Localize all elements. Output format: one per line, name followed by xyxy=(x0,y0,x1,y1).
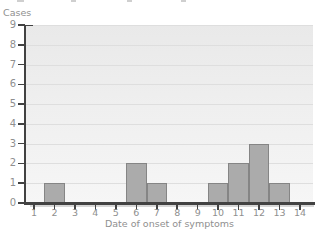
y-tick-label-4: 4 xyxy=(0,119,16,129)
gridline-y2 xyxy=(26,163,313,164)
y-tick-label-8: 8 xyxy=(0,40,16,50)
y-tick-label-7: 7 xyxy=(0,60,16,70)
y-tick-label-5: 5 xyxy=(0,99,16,109)
y-axis-line xyxy=(24,25,26,205)
gridline-y3 xyxy=(26,144,313,145)
x-tick-label-11: 11 xyxy=(229,207,249,218)
x-tick-label-8: 8 xyxy=(167,207,187,218)
cropped-text-artifact xyxy=(71,0,76,2)
cropped-text-artifact xyxy=(17,0,24,2)
x-tick-label-7: 7 xyxy=(147,207,167,218)
y-axis-title: Cases xyxy=(3,7,31,18)
bar-day-11 xyxy=(228,163,249,203)
gridline-y6 xyxy=(26,84,313,85)
y-tick-8 xyxy=(18,44,25,46)
y-tick-label-3: 3 xyxy=(0,139,16,149)
gridline-y7 xyxy=(26,65,313,66)
y-tick-label-2: 2 xyxy=(0,158,16,168)
y-tick-2 xyxy=(18,163,25,165)
x-tick-label-13: 13 xyxy=(270,207,290,218)
bar-day-2 xyxy=(44,183,65,203)
y-tick-5 xyxy=(18,103,25,105)
y-tick-6 xyxy=(18,84,25,86)
y-tick-1 xyxy=(18,182,25,184)
x-tick-label-9: 9 xyxy=(188,207,208,218)
epi-curve-chart: Cases Date of onset of symptoms 01234567… xyxy=(0,0,322,233)
x-tick-label-3: 3 xyxy=(65,207,85,218)
y-tick-4 xyxy=(18,123,25,125)
y-tick-label-0: 0 xyxy=(0,198,16,208)
bar-day-7 xyxy=(147,183,168,203)
x-tick-label-1: 1 xyxy=(24,207,44,218)
x-tick-label-2: 2 xyxy=(44,207,64,218)
gridline-y5 xyxy=(26,104,313,105)
x-axis-line xyxy=(24,202,315,204)
bar-day-12 xyxy=(249,144,270,203)
cropped-text-artifact xyxy=(181,0,186,2)
cropped-text-artifact xyxy=(127,0,132,2)
y-tick-label-6: 6 xyxy=(0,79,16,89)
plot-area xyxy=(26,25,313,203)
bar-day-10 xyxy=(208,183,229,203)
y-tick-3 xyxy=(18,143,25,145)
x-tick-label-4: 4 xyxy=(85,207,105,218)
y-tick-label-9: 9 xyxy=(0,20,16,30)
y-tick-label-1: 1 xyxy=(0,178,16,188)
x-tick-label-6: 6 xyxy=(126,207,146,218)
x-tick-label-12: 12 xyxy=(249,207,269,218)
bar-day-6 xyxy=(126,163,147,203)
x-tick-label-5: 5 xyxy=(106,207,126,218)
bar-day-13 xyxy=(269,183,290,203)
y-tick-0 xyxy=(18,202,25,204)
y-tick-9 xyxy=(18,24,25,26)
gridline-y8 xyxy=(26,45,313,46)
x-axis-title: Date of onset of symptoms xyxy=(26,218,313,229)
y-tick-7 xyxy=(18,64,25,66)
gridline-y9 xyxy=(26,25,313,26)
gridline-y4 xyxy=(26,124,313,125)
x-tick-label-10: 10 xyxy=(208,207,228,218)
y-axis-top-cap xyxy=(24,25,33,27)
x-tick-label-14: 14 xyxy=(290,207,310,218)
